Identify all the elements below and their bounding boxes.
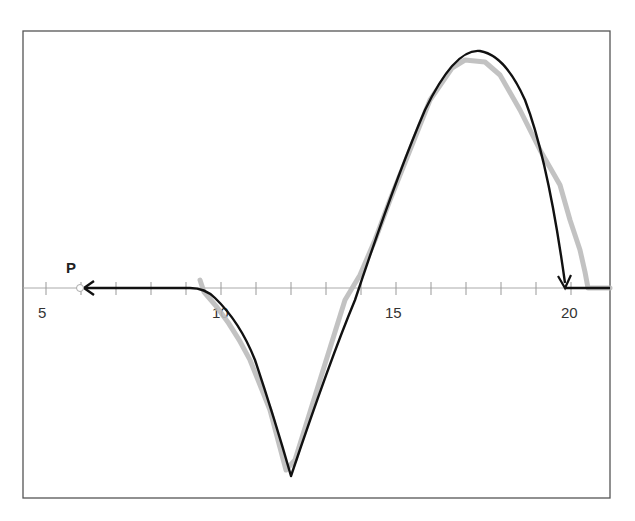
- model-curve: [86, 51, 565, 476]
- tick-label-20: 20: [561, 304, 578, 321]
- diagram-canvas: 5 10 15 20 P: [0, 0, 635, 521]
- measured-trace: [200, 60, 610, 470]
- tick-label-5: 5: [38, 304, 46, 321]
- point-p-marker: [77, 285, 84, 292]
- tick-label-15: 15: [385, 304, 402, 321]
- frame: [23, 31, 610, 498]
- point-p-label: P: [66, 259, 76, 276]
